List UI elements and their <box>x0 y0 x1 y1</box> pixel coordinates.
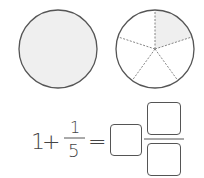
whole-circle <box>19 10 97 88</box>
answer-whole-box[interactable] <box>110 124 142 156</box>
answer-numerator-box[interactable] <box>147 102 181 135</box>
answer-denominator-box[interactable] <box>147 143 181 176</box>
plus-sign: + <box>42 131 60 153</box>
fraction-denominator: 5 <box>68 142 79 160</box>
divided-circle <box>116 10 194 88</box>
fraction-numerator: 1 <box>70 120 80 136</box>
equals-sign: = <box>88 131 106 153</box>
